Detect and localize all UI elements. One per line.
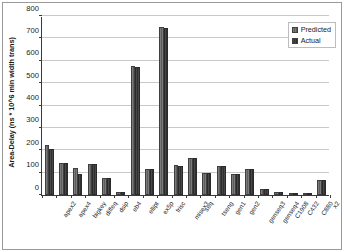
x-tick-mark bbox=[114, 195, 115, 198]
x-tick-mark bbox=[100, 195, 101, 198]
x-tick-mark bbox=[215, 195, 216, 198]
bar-group bbox=[85, 17, 99, 195]
x-tick-mark bbox=[244, 195, 245, 198]
x-tick-mark bbox=[200, 195, 201, 198]
bar-group bbox=[243, 17, 257, 195]
y-tick-label: 500 bbox=[26, 70, 39, 79]
bar-group bbox=[56, 17, 70, 195]
bar-actual-misex3 bbox=[178, 166, 183, 195]
bar-actual-diffeq bbox=[92, 164, 97, 195]
x-tick-mark bbox=[143, 195, 144, 198]
gridline bbox=[42, 15, 329, 16]
bar-actual-tseng bbox=[207, 173, 212, 195]
bar-group bbox=[71, 17, 85, 195]
x-tick-mark bbox=[71, 195, 72, 198]
bar-actual-dsip bbox=[107, 178, 112, 195]
x-tick-mark bbox=[157, 195, 158, 198]
bar-series-layer bbox=[42, 17, 329, 195]
y-tick-label: 700 bbox=[26, 25, 39, 34]
bar-actual-genseq4 bbox=[264, 189, 269, 195]
x-tick-mark bbox=[128, 195, 129, 198]
x-tick-mark bbox=[316, 195, 317, 198]
bar-group bbox=[228, 17, 242, 195]
x-tick-mark bbox=[56, 195, 57, 198]
legend-item-actual: Actual bbox=[292, 36, 331, 45]
legend-label: Predicted bbox=[301, 25, 331, 34]
bar-group bbox=[272, 17, 286, 195]
bar-actual-seq bbox=[193, 158, 198, 195]
x-tick-mark bbox=[42, 195, 43, 198]
y-tick-label: 100 bbox=[26, 160, 39, 169]
bar-group bbox=[42, 17, 56, 195]
bar-group bbox=[142, 17, 156, 195]
y-axis-title: Area-Delay (ns * 10^6 min width trans) bbox=[7, 14, 16, 192]
bar-group bbox=[200, 17, 214, 195]
x-tick-mark bbox=[287, 195, 288, 198]
x-tick-mark bbox=[301, 195, 302, 198]
bar-actual-ex5p bbox=[150, 169, 155, 195]
plot-area: 0100200300400500600700800 apex2apex4bigk… bbox=[41, 17, 329, 196]
y-tick-label: 300 bbox=[26, 115, 39, 124]
y-tick-label: 400 bbox=[26, 93, 39, 102]
y-tick-label: 200 bbox=[26, 137, 39, 146]
bar-actual-genseq3 bbox=[250, 169, 255, 195]
bar-actual-apex2 bbox=[49, 149, 54, 195]
bar-actual-C1908 bbox=[279, 192, 284, 195]
x-tick-mark bbox=[172, 195, 173, 198]
bar-group bbox=[114, 17, 128, 195]
y-tick-label: 800 bbox=[26, 3, 39, 12]
bar-group bbox=[171, 17, 185, 195]
bar-actual-gen2 bbox=[236, 174, 241, 195]
bar-group bbox=[257, 17, 271, 195]
chart-legend: PredictedActual bbox=[288, 22, 336, 48]
legend-item-predicted: Predicted bbox=[292, 25, 331, 34]
bar-actual-gen1 bbox=[221, 166, 226, 195]
x-tick-mark bbox=[330, 195, 331, 198]
legend-swatch-icon bbox=[292, 38, 298, 44]
bar-chart: Area-Delay (ns * 10^6 min width trans) 0… bbox=[0, 0, 344, 252]
y-tick-label: 0 bbox=[35, 182, 39, 191]
y-tick-mark bbox=[39, 15, 42, 16]
bar-group bbox=[128, 17, 142, 195]
bar-group bbox=[99, 17, 113, 195]
legend-swatch-icon bbox=[292, 27, 298, 33]
x-tick-mark bbox=[186, 195, 187, 198]
bar-actual-frisc bbox=[164, 28, 169, 195]
x-tick-mark bbox=[272, 195, 273, 198]
bar-actual-bigkey bbox=[78, 174, 83, 195]
x-tick-mark bbox=[85, 195, 86, 198]
bar-actual-C880 bbox=[307, 193, 312, 195]
bar-group bbox=[185, 17, 199, 195]
bar-actual-ellipt bbox=[135, 67, 140, 195]
bar-group bbox=[214, 17, 228, 195]
bar-group bbox=[157, 17, 171, 195]
bar-actual-x2 bbox=[322, 180, 327, 195]
bar-actual-C432 bbox=[293, 193, 298, 195]
x-tick-mark bbox=[229, 195, 230, 198]
bar-actual-eb4 bbox=[121, 192, 126, 195]
x-tick-mark bbox=[258, 195, 259, 198]
bar-actual-apex4 bbox=[64, 163, 69, 195]
y-tick-label: 600 bbox=[26, 48, 39, 57]
legend-label: Actual bbox=[301, 36, 321, 45]
